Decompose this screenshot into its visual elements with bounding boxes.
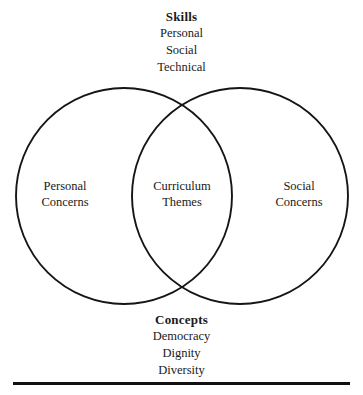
center-region-label-line2: Themes: [139, 194, 225, 210]
bottom-list-item: Diversity: [0, 362, 363, 379]
venn-diagram-figure: Skills Personal Social Technical Persona…: [0, 0, 363, 395]
bottom-horizontal-rule: [13, 382, 350, 385]
left-region-label-line1: Personal: [22, 178, 108, 194]
bottom-heading-title: Concepts: [0, 311, 363, 328]
right-region-label-line1: Social: [256, 178, 342, 194]
left-region-label-line2: Concerns: [22, 194, 108, 210]
left-region-label: Personal Concerns: [22, 178, 108, 210]
bottom-heading-list: Democracy Dignity Diversity: [0, 328, 363, 379]
bottom-list-item: Dignity: [0, 345, 363, 362]
center-region-label: Curriculum Themes: [139, 178, 225, 210]
bottom-list-item: Democracy: [0, 328, 363, 345]
right-region-label: Social Concerns: [256, 178, 342, 210]
right-region-label-line2: Concerns: [256, 194, 342, 210]
center-region-label-line1: Curriculum: [139, 178, 225, 194]
bottom-heading-block: Concepts Democracy Dignity Diversity: [0, 311, 363, 379]
